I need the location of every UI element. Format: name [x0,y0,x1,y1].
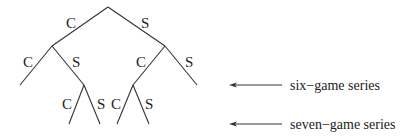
edge-label-css: S [97,96,105,112]
game-series-tree-diagram: CSCSCSCSCS six−game seriesseven−game ser… [0,0,408,139]
edge-label-c: C [66,15,76,31]
tree-edges [20,7,197,124]
seven-game-series-label: seven−game series [290,117,395,132]
edge-label-cs: S [72,54,80,70]
edge-label-sc: C [136,54,146,70]
tree-edge-s [108,7,165,46]
edge-labels: CSCSCSCSCS [23,15,193,112]
annotations: six−game seriesseven−game series [229,78,395,132]
edge-label-csc: C [62,96,72,112]
edge-label-ss: S [185,54,193,70]
edge-label-scs: S [145,96,153,112]
edge-label-s: S [141,15,149,31]
edge-label-scc: C [111,96,121,112]
six-game-series-label: six−game series [290,78,380,93]
tree-edge-c [52,7,108,46]
edge-label-cc: C [23,54,33,70]
